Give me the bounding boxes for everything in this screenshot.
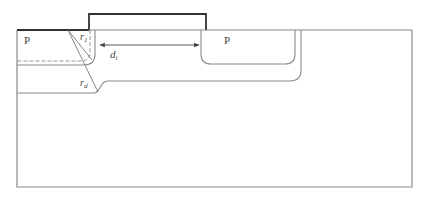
- left-p-label: P: [24, 35, 30, 46]
- right-p-junction: [201, 30, 295, 64]
- drift-region-boundary: [17, 30, 301, 93]
- cross-section-diagram: [0, 0, 426, 200]
- di-label: di: [110, 49, 117, 62]
- rd-label: rd: [80, 78, 87, 90]
- gate-electrode: [89, 14, 206, 30]
- right-p-label: P: [224, 35, 230, 46]
- substrate-outline: [17, 30, 412, 187]
- r1-label: r1: [80, 32, 87, 44]
